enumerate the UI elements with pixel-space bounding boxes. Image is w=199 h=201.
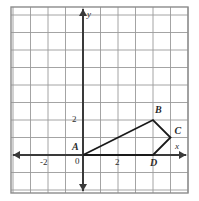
vertex-label-a: A bbox=[72, 142, 79, 152]
y-axis-label: y bbox=[87, 10, 91, 19]
y-tick-label-2: 2 bbox=[72, 115, 77, 124]
axes bbox=[13, 9, 186, 191]
x-tick-label-neg2: -2 bbox=[40, 158, 48, 167]
coordinate-grid-svg bbox=[0, 0, 199, 201]
vertex-label-d: D bbox=[150, 158, 157, 168]
plot-border bbox=[11, 7, 188, 193]
coordinate-plane-figure: yx0-222ABCD bbox=[0, 0, 199, 201]
x-tick-label-2: 2 bbox=[115, 158, 120, 167]
vertex-label-c: C bbox=[175, 126, 182, 136]
grid-lines bbox=[11, 7, 188, 193]
vertex-label-b: B bbox=[155, 105, 162, 115]
x-axis-label: x bbox=[175, 142, 179, 151]
origin-label: 0 bbox=[75, 157, 80, 166]
